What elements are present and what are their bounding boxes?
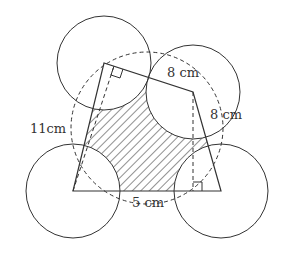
label-11cm: 11cm xyxy=(30,121,66,136)
label-8cm-top: 8 cm xyxy=(167,65,199,80)
label-5cm: 5 cm xyxy=(132,195,164,210)
geometry-figure: 11cm 8 cm 8 cm 5 cm xyxy=(0,0,281,255)
label-8cm-right: 8 cm xyxy=(210,107,242,122)
